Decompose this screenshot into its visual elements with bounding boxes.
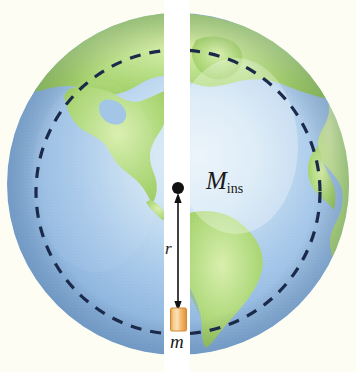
earth-center-dot [172, 182, 184, 194]
label-mass-inside: Mins [206, 168, 243, 196]
label-mass: m [170, 332, 184, 351]
label-mass-inside-base: M [206, 167, 227, 194]
test-mass-block [171, 308, 187, 331]
label-radius: r [165, 240, 172, 257]
label-mass-inside-subscript: ins [227, 181, 243, 196]
earth-tunnel-diagram [0, 0, 356, 372]
